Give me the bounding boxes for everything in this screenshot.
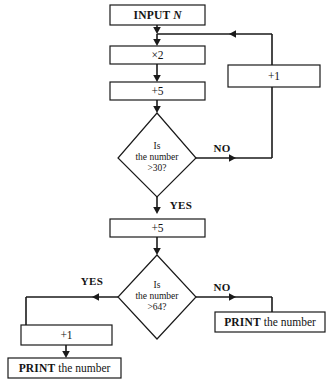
flowchart-svg: INPUT N ×2 +5 +1 Is the number >30? NO Y… — [0, 0, 334, 382]
flowchart-canvas: INPUT N ×2 +5 +1 Is the number >30? NO Y… — [0, 0, 334, 382]
arrowhead-to-decision64 — [153, 248, 161, 255]
node-print-left-keyword: PRINT — [19, 362, 56, 374]
arrowhead-decision30-no — [229, 154, 236, 162]
branch-label-thirty-yes: YES — [170, 199, 192, 211]
node-print-right-rest: the number — [261, 316, 316, 328]
node-decision-thirty-line1: Is — [154, 141, 161, 151]
node-print-right-label: PRINT the number — [224, 316, 316, 328]
arrowhead-to-multiply — [153, 39, 161, 46]
arrowhead-to-printleft — [62, 351, 70, 358]
arrowhead-to-addfive-first — [153, 75, 161, 82]
node-increment-loop-label: +1 — [268, 70, 280, 82]
branch-label-thirty-no: NO — [213, 142, 230, 154]
arrowhead-to-decision30 — [153, 106, 161, 113]
branch-label-sixtyfour-yes: YES — [81, 275, 103, 287]
node-decision-sixtyfour-line3: >64? — [147, 302, 166, 312]
node-input-variable: N — [172, 9, 182, 21]
node-multiply-label: ×2 — [151, 49, 163, 61]
arrowhead-decision64-yes — [92, 293, 99, 301]
node-decision-sixtyfour-line2: the number — [135, 291, 179, 301]
arrowhead-feedback-left — [229, 30, 236, 38]
node-print-left-rest: the number — [55, 362, 110, 374]
node-input-label: INPUT N — [134, 9, 183, 21]
node-decision-thirty-line3: >30? — [147, 163, 166, 173]
arrowhead-input-down — [153, 27, 161, 34]
branch-label-sixtyfour-no: NO — [213, 281, 230, 293]
arrowhead-decision64-no — [229, 293, 236, 301]
arrowhead-decision30-yes — [153, 207, 161, 214]
node-addfive-second-label: +5 — [151, 222, 163, 234]
node-increment-yes-label: +1 — [60, 329, 72, 341]
node-print-left-label: PRINT the number — [19, 362, 111, 374]
node-decision-sixtyfour-line1: Is — [154, 280, 161, 290]
node-addfive-first-label: +5 — [151, 85, 163, 97]
node-decision-thirty-line2: the number — [135, 152, 179, 162]
node-input-keyword: INPUT — [134, 9, 171, 21]
node-print-right-keyword: PRINT — [224, 316, 261, 328]
